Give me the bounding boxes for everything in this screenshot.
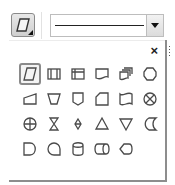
shape-manual-input[interactable] bbox=[19, 88, 41, 110]
line-style-dropdown-button[interactable] bbox=[146, 15, 163, 36]
shape-magnetic-disk[interactable] bbox=[67, 138, 89, 160]
shape-manual-operation[interactable] bbox=[43, 88, 65, 110]
shape-card[interactable] bbox=[91, 88, 113, 110]
shape-parallelogram[interactable] bbox=[19, 63, 41, 85]
display-icon bbox=[118, 141, 134, 157]
shape-grid bbox=[19, 63, 161, 163]
shape-predefined-process[interactable] bbox=[43, 63, 65, 85]
shape-off-page-connector[interactable] bbox=[67, 88, 89, 110]
shape-delay[interactable] bbox=[19, 138, 41, 160]
merge-icon bbox=[118, 116, 134, 132]
shape-sort[interactable] bbox=[67, 113, 89, 135]
shape-direct-access-storage[interactable] bbox=[91, 138, 113, 160]
parallelogram-icon bbox=[22, 66, 38, 82]
line-style-dropdown[interactable] bbox=[50, 14, 164, 37]
chevron-down-icon bbox=[151, 23, 159, 28]
shape-stored-data[interactable] bbox=[139, 113, 161, 135]
shape-sequential-access-storage[interactable] bbox=[43, 138, 65, 160]
line-style-sample bbox=[55, 25, 144, 26]
magnetic-disk-icon bbox=[70, 141, 86, 157]
shape-collate[interactable] bbox=[43, 113, 65, 135]
preparation-icon bbox=[142, 66, 158, 82]
or-icon bbox=[22, 116, 38, 132]
manual-operation-icon bbox=[46, 91, 62, 107]
summing-junction-icon bbox=[142, 91, 158, 107]
internal-storage-icon bbox=[70, 66, 86, 82]
punched-tape-icon bbox=[118, 91, 134, 107]
card-icon bbox=[94, 91, 110, 107]
shape-internal-storage[interactable] bbox=[67, 63, 89, 85]
shape-document[interactable] bbox=[91, 63, 113, 85]
shape-picker-button[interactable] bbox=[11, 13, 35, 37]
shape-multi-document[interactable] bbox=[115, 63, 137, 85]
panel-top-edge bbox=[9, 40, 165, 41]
direct-access-storage-icon bbox=[94, 141, 110, 157]
multi-document-icon bbox=[118, 66, 134, 82]
collate-icon bbox=[46, 116, 62, 132]
dropdown-indicator-icon bbox=[28, 30, 33, 35]
extract-icon bbox=[94, 116, 110, 132]
shape-display[interactable] bbox=[115, 138, 137, 160]
predefined-process-icon bbox=[46, 66, 62, 82]
shape-preparation[interactable] bbox=[139, 63, 161, 85]
stored-data-icon bbox=[142, 116, 158, 132]
shape-gallery-panel: × bbox=[9, 40, 167, 182]
shape-extract[interactable] bbox=[91, 113, 113, 135]
toolbar-separator bbox=[41, 12, 42, 39]
sort-icon bbox=[70, 116, 86, 132]
shape-punched-tape[interactable] bbox=[115, 88, 137, 110]
shape-summing-junction[interactable] bbox=[139, 88, 161, 110]
shape-merge[interactable] bbox=[115, 113, 137, 135]
shape-or[interactable] bbox=[19, 113, 41, 135]
manual-input-icon bbox=[22, 91, 38, 107]
delay-icon bbox=[22, 141, 38, 157]
close-button[interactable]: × bbox=[150, 45, 158, 57]
drag-handle-grip-icon[interactable] bbox=[168, 45, 171, 57]
off-page-connector-icon bbox=[70, 91, 86, 107]
sequential-access-storage-icon bbox=[46, 141, 62, 157]
document-icon bbox=[94, 66, 110, 82]
